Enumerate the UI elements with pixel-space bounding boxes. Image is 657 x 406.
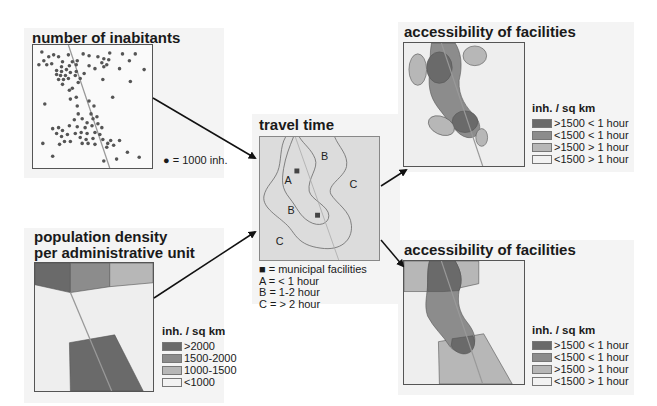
access-top-legend-row: <1500 > 1 hour bbox=[532, 153, 629, 165]
density-legend-label: 1000-1500 bbox=[184, 364, 237, 376]
road-line bbox=[68, 45, 109, 168]
access-top-title: accessibility of facilities bbox=[404, 24, 576, 40]
travel-legend: ■ = municipal facilities A = < 1 hour B … bbox=[259, 264, 367, 310]
travel-legend-item: C = > 2 hour bbox=[259, 299, 367, 311]
inhabitants-map bbox=[32, 44, 153, 169]
access-bottom-legend-row: >1500 > 1 hour bbox=[532, 363, 629, 375]
access-bottom-legend-row: >1500 < 1 hour bbox=[532, 339, 629, 351]
access-top-legend: inh. / sq km >1500 < 1 hour <1500 < 1 ho… bbox=[532, 102, 629, 165]
access-top-legend-label: <1500 < 1 hour bbox=[554, 129, 629, 141]
svg-text:B: B bbox=[321, 150, 328, 162]
density-legend-title: inh. / sq km bbox=[162, 325, 237, 337]
access-top-legend-row: >1500 < 1 hour bbox=[532, 117, 629, 129]
density-legend-label: >2000 bbox=[184, 340, 215, 352]
density-map bbox=[34, 262, 154, 392]
travel-map: A B B C C bbox=[259, 136, 380, 261]
access-top-zones bbox=[404, 43, 524, 166]
access-bottom-legend-row: <1500 < 1 hour bbox=[532, 351, 629, 363]
access-bottom-map bbox=[403, 260, 525, 385]
density-legend: inh. / sq km >2000 1500-2000 1000-1500 <… bbox=[162, 325, 237, 388]
access-bottom-legend-row: <1500 > 1 hour bbox=[532, 375, 629, 387]
access-bottom-legend: inh. / sq km >1500 < 1 hour <1500 < 1 ho… bbox=[532, 324, 629, 387]
access-top-legend-row: <1500 < 1 hour bbox=[532, 129, 629, 141]
population-dots bbox=[37, 50, 146, 163]
access-bottom-zones bbox=[404, 261, 524, 384]
density-legend-row: <1000 bbox=[162, 376, 237, 388]
travel-isochrones: A B B C C bbox=[260, 137, 379, 260]
access-bottom-legend-title: inh. / sq km bbox=[532, 324, 629, 336]
access-top-legend-row: >1500 > 1 hour bbox=[532, 141, 629, 153]
access-bottom-legend-label: >1500 < 1 hour bbox=[554, 339, 629, 351]
density-legend-row: 1000-1500 bbox=[162, 364, 237, 376]
dot-map bbox=[33, 45, 152, 168]
travel-legend-item: ■ = municipal facilities bbox=[259, 264, 367, 276]
access-bottom-legend-label: <1500 < 1 hour bbox=[554, 351, 629, 363]
access-top-legend-title: inh. / sq km bbox=[532, 102, 629, 114]
svg-text:A: A bbox=[285, 174, 293, 186]
access-top-legend-label: >1500 > 1 hour bbox=[554, 141, 629, 153]
access-top-legend-label: <1500 > 1 hour bbox=[554, 153, 629, 165]
density-legend-row: 1500-2000 bbox=[162, 352, 237, 364]
density-legend-label: <1000 bbox=[184, 376, 215, 388]
svg-text:C: C bbox=[349, 178, 357, 190]
svg-text:B: B bbox=[288, 204, 295, 216]
access-top-legend-label: >1500 < 1 hour bbox=[554, 117, 629, 129]
density-title-line1: population density bbox=[34, 229, 167, 245]
inhabitants-note: ● = 1000 inh. bbox=[163, 155, 227, 167]
access-bottom-title: accessibility of facilities bbox=[404, 242, 576, 258]
access-bottom-legend-label: <1500 > 1 hour bbox=[554, 375, 629, 387]
density-legend-label: 1500-2000 bbox=[184, 352, 237, 364]
travel-legend-item: B = 1-2 hour bbox=[259, 287, 367, 299]
density-polygons bbox=[35, 263, 153, 391]
access-bottom-legend-label: >1500 > 1 hour bbox=[554, 363, 629, 375]
density-title-line2: per administrative unit bbox=[34, 245, 195, 261]
travel-title: travel time bbox=[259, 117, 334, 133]
density-legend-row: >2000 bbox=[162, 340, 237, 352]
access-top-map bbox=[403, 42, 525, 167]
svg-text:C: C bbox=[276, 235, 284, 247]
